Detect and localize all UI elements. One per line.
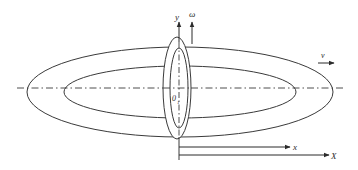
y-axis-label: y (174, 12, 179, 22)
origin-subscript: 1 (177, 100, 180, 105)
X-axis-label: X (330, 151, 337, 161)
rotating-ring-diagram: y ω v 0 1 x X (0, 0, 358, 170)
origin-label: 0 (172, 94, 176, 103)
omega-label: ω (189, 9, 195, 19)
velocity-label: v (321, 51, 325, 60)
x-axis-label: x (292, 142, 297, 152)
